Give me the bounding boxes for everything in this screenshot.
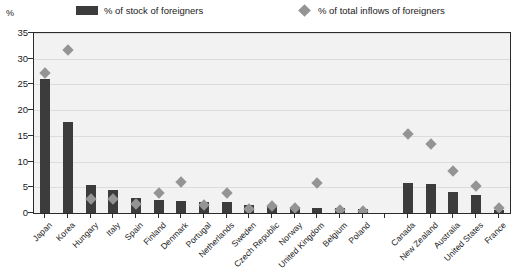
x-axis-tick-mark: [430, 214, 431, 218]
data-point-diamond: [425, 138, 436, 149]
x-axis-tick-mark: [203, 214, 204, 218]
chart-legend: % of stock of foreigners % of total infl…: [0, 6, 514, 22]
x-axis-tick-mark: [384, 214, 385, 218]
x-axis-tick-mark: [271, 214, 272, 218]
data-point-diamond: [62, 44, 73, 55]
legend-label-stock: % of stock of foreigners: [104, 6, 203, 16]
x-axis-tick-mark: [158, 214, 159, 218]
y-axis-tick-label: 25: [4, 78, 28, 89]
data-point-diamond: [153, 188, 164, 199]
y-axis: 05101520253035: [0, 32, 33, 214]
y-axis-tick-label: 15: [4, 129, 28, 140]
x-axis-tick-mark: [90, 214, 91, 218]
data-point-diamond: [221, 187, 232, 198]
x-axis-tick-mark: [112, 214, 113, 218]
x-axis-tick-mark: [316, 214, 317, 218]
legend-item-stock[interactable]: % of stock of foreigners: [76, 6, 203, 16]
data-point-diamond: [130, 198, 141, 209]
y-axis-tick-label: 5: [4, 181, 28, 192]
chart-figure: % % of stock of foreigners % of total in…: [0, 0, 514, 280]
y-axis-tick-label: 10: [4, 155, 28, 166]
data-point-diamond: [402, 129, 413, 140]
x-axis-tick-mark: [407, 214, 408, 218]
x-axis-tick-mark: [180, 214, 181, 218]
x-axis: JapanKoreaHungaryItalySpainFinlandDenmar…: [33, 214, 511, 280]
y-axis-tick-label: 30: [4, 52, 28, 63]
y-axis-tick-label: 0: [4, 207, 28, 218]
data-point-diamond: [448, 165, 459, 176]
x-axis-tick-mark: [44, 214, 45, 218]
x-axis-tick-label-text: Japan: [31, 220, 54, 243]
x-axis-tick-mark: [135, 214, 136, 218]
x-axis-tick-mark: [362, 214, 363, 218]
x-axis-tick-mark: [248, 214, 249, 218]
x-axis-tick-mark: [226, 214, 227, 218]
legend-item-inflows[interactable]: % of total inflows of foreigners: [297, 6, 445, 16]
x-axis-tick-mark: [339, 214, 340, 218]
x-axis-tick-mark: [475, 214, 476, 218]
y-axis-tick-label: 35: [4, 27, 28, 38]
filled-square-icon: [76, 6, 98, 15]
x-axis-tick-mark: [452, 214, 453, 218]
data-point-diamond: [40, 67, 51, 78]
filled-diamond-icon: [298, 4, 311, 17]
plot-area: [33, 32, 511, 214]
data-point-diamond: [85, 193, 96, 204]
x-axis-tick-mark: [294, 214, 295, 218]
y-axis-tick-label: 20: [4, 104, 28, 115]
data-point-diamond: [176, 176, 187, 187]
x-axis-tick-mark: [67, 214, 68, 218]
x-axis-tick-label-text: Italy: [104, 220, 122, 238]
legend-label-inflows: % of total inflows of foreigners: [318, 6, 445, 16]
x-axis-tick-mark: [498, 214, 499, 218]
points-layer: [34, 33, 510, 213]
